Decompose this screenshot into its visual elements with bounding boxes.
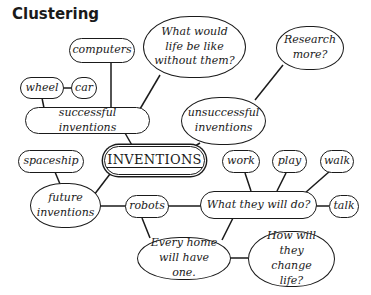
node-inventions-center: INVENTIONS bbox=[104, 146, 205, 175]
node-computers: computers bbox=[69, 38, 135, 63]
node-wheel: wheel bbox=[20, 77, 64, 99]
line-center-future bbox=[94, 174, 110, 195]
line-play-whattheydo bbox=[277, 173, 286, 191]
node-spaceship: spaceship bbox=[18, 150, 84, 173]
node-research-more: Research more? bbox=[276, 26, 344, 70]
node-unsuccessful-inventions: unsuccessful inventions bbox=[181, 97, 266, 145]
line-whatwould-successful bbox=[140, 75, 160, 109]
node-car: car bbox=[71, 77, 97, 99]
line-research-unsuccessful bbox=[255, 65, 283, 100]
node-how-will-they-change-life: How will they change life? bbox=[248, 231, 335, 287]
node-work: work bbox=[222, 150, 260, 173]
node-what-would-life-be-like: What would life be like without them? bbox=[143, 16, 246, 78]
node-future-inventions: future inventions bbox=[30, 183, 101, 228]
line-walk-whattheydo bbox=[305, 171, 330, 193]
node-walk: walk bbox=[320, 150, 354, 173]
line-whattheydo-everyhome bbox=[222, 218, 233, 240]
node-robots: robots bbox=[125, 195, 169, 218]
line-robots-everyhome bbox=[142, 218, 150, 238]
node-talk: talk bbox=[329, 195, 359, 218]
node-successful-inventions: successful inventions bbox=[25, 107, 150, 134]
node-play: play bbox=[272, 150, 307, 173]
line-work-whattheydo bbox=[245, 173, 251, 191]
node-what-they-will-do: What they will do? bbox=[200, 191, 317, 219]
node-every-home: Every home will have one. bbox=[137, 237, 231, 280]
